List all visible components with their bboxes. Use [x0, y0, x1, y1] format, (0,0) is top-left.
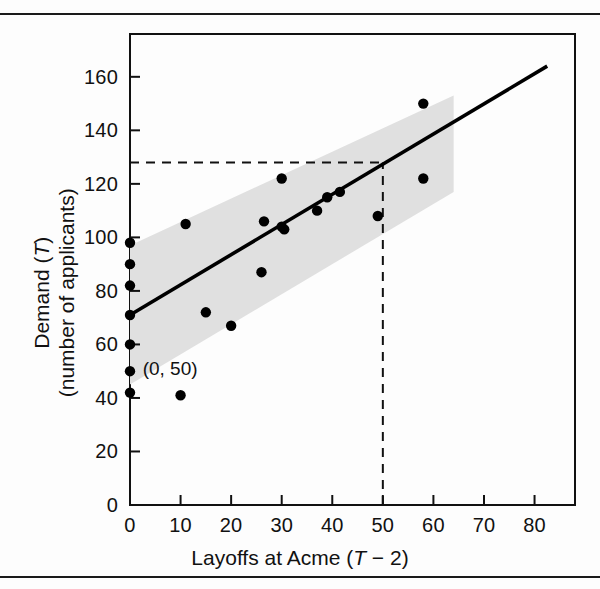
- data-point[interactable]: [312, 205, 322, 215]
- x-tick-label-60: 60: [422, 514, 445, 537]
- x-axis-title: Layoffs at Acme (T − 2): [0, 546, 600, 570]
- x-tick-label-0: 0: [124, 514, 135, 537]
- x-tick-label-40: 40: [321, 514, 344, 537]
- y-axis-title-line2: (number of applicants): [55, 113, 80, 473]
- data-point[interactable]: [125, 387, 135, 397]
- x-tick-label-70: 70: [473, 514, 496, 537]
- data-point[interactable]: [226, 320, 236, 330]
- x-tick-label-80: 80: [523, 514, 546, 537]
- data-point[interactable]: [125, 310, 135, 320]
- scatter-plot: [0, 0, 600, 589]
- y-tick-label-140: 140: [84, 119, 118, 142]
- prediction-band: [130, 96, 454, 385]
- data-point[interactable]: [335, 187, 345, 197]
- data-point[interactable]: [125, 259, 135, 269]
- y-tick-label-80: 80: [95, 279, 118, 302]
- data-point[interactable]: [125, 280, 135, 290]
- y-tick-label-40: 40: [95, 386, 118, 409]
- data-point[interactable]: [418, 98, 428, 108]
- y-tick-label-60: 60: [95, 333, 118, 356]
- y-tick-label-0: 0: [107, 494, 118, 517]
- data-point[interactable]: [418, 173, 428, 183]
- x-tick-label-20: 20: [220, 514, 243, 537]
- x-tick-label-10: 10: [169, 514, 192, 537]
- y-tick-label-20: 20: [95, 440, 118, 463]
- y-axis-title: Demand (T) (number of applicants): [30, 113, 80, 473]
- data-point[interactable]: [125, 339, 135, 349]
- x-tick-label-30: 30: [270, 514, 293, 537]
- y-axis-title-suffix: ): [30, 237, 53, 244]
- point-annotation-label: (0, 50): [143, 358, 198, 380]
- y-axis-title-prefix: Demand (: [30, 257, 53, 349]
- x-axis-title-variable: T: [353, 546, 366, 569]
- data-point[interactable]: [201, 307, 211, 317]
- y-tick-label-100: 100: [84, 226, 118, 249]
- data-point[interactable]: [125, 238, 135, 248]
- data-point[interactable]: [322, 192, 332, 202]
- y-tick-label-160: 160: [84, 65, 118, 88]
- y-axis-title-variable: T: [30, 244, 53, 257]
- y-axis-title-line1: Demand (T): [30, 113, 55, 473]
- data-point[interactable]: [256, 267, 266, 277]
- x-tick-label-50: 50: [372, 514, 395, 537]
- data-point[interactable]: [373, 211, 383, 221]
- data-point[interactable]: [277, 173, 287, 183]
- x-axis-title-prefix: Layoffs at Acme (: [191, 546, 353, 569]
- data-point[interactable]: [180, 219, 190, 229]
- y-tick-label-120: 120: [84, 172, 118, 195]
- data-point[interactable]: [259, 216, 269, 226]
- data-point[interactable]: [279, 224, 289, 234]
- prediction-band-area: [130, 96, 454, 385]
- figure-container: 02040608010012014016001020304050607080 (…: [0, 0, 600, 589]
- data-point[interactable]: [125, 366, 135, 376]
- data-point[interactable]: [175, 390, 185, 400]
- x-axis-title-suffix: − 2): [366, 546, 409, 569]
